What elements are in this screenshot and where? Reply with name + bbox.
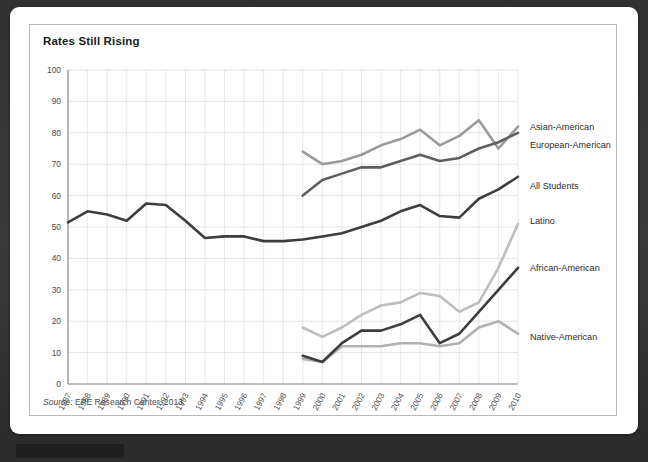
x-axis-tick-label: 1994 (194, 391, 211, 412)
x-axis-tick-label: 1990 (115, 391, 132, 412)
x-axis-tick-label: 1999 (292, 391, 309, 412)
y-axis-tick-label: 50 (52, 222, 62, 232)
x-axis-tick-label: 2003 (370, 391, 387, 412)
x-axis-tick-label: 2010 (507, 391, 524, 412)
y-axis-tick-label: 60 (52, 191, 62, 201)
x-axis-tick-label: 1996 (233, 391, 250, 412)
x-axis-tick-label: 2002 (350, 391, 367, 412)
x-axis-tick-label: 2008 (468, 391, 485, 412)
x-axis-tick-label: 2004 (389, 391, 406, 412)
x-axis-tick-label: 1987 (57, 391, 74, 412)
y-axis-tick-label: 100 (47, 65, 61, 75)
series-line-native-american (303, 321, 518, 362)
y-axis-tick-label: 30 (52, 285, 62, 295)
series-line-all students (68, 177, 518, 241)
x-axis-tick-label: 2001 (331, 391, 348, 412)
chart-frame: Rates Still Rising Source: EPE Research … (29, 24, 617, 416)
chart-card: Rates Still Rising Source: EPE Research … (10, 7, 638, 434)
x-axis-tick-label: 1991 (135, 391, 152, 412)
x-axis-tick-label: 2005 (409, 391, 426, 412)
y-axis-tick-label: 40 (52, 253, 62, 263)
y-axis-tick-label: 0 (56, 379, 61, 389)
x-axis-tick-label: 1989 (96, 391, 113, 412)
y-axis-tick-label: 80 (52, 128, 62, 138)
series-label-african-american: African-American (530, 263, 600, 273)
y-axis-tick-label: 90 (52, 96, 62, 106)
x-axis-tick-label: 1993 (174, 391, 191, 412)
x-axis-tick-label: 2006 (429, 391, 446, 412)
x-axis-tick-label: 1992 (155, 391, 172, 412)
y-axis-tick-label: 10 (52, 348, 62, 358)
line-chart: 0102030405060708090100198719881989199019… (30, 25, 618, 417)
y-axis-tick-label: 70 (52, 159, 62, 169)
series-label-all students: All Students (530, 181, 579, 191)
x-axis-tick-label: 1998 (272, 391, 289, 412)
y-axis-tick-label: 20 (52, 316, 62, 326)
x-axis-tick-label: 1997 (252, 391, 269, 412)
plot-area: 0102030405060708090100198719881989199019… (30, 25, 618, 417)
x-axis-tick-label: 1988 (76, 391, 93, 412)
x-axis-tick-label: 2007 (448, 391, 465, 412)
series-label-latino: Latino (530, 216, 555, 226)
series-line-african-american (303, 268, 518, 362)
x-axis-tick-label: 2009 (487, 391, 504, 412)
series-label-asian-american: Asian-American (530, 122, 594, 132)
series-label-native-american: Native-American (530, 332, 597, 342)
x-axis-tick-label: 1995 (213, 391, 230, 412)
series-label-european-american: European-American (530, 140, 611, 150)
x-axis-tick-label: 2000 (311, 391, 328, 412)
taskbar-strip (16, 444, 124, 458)
